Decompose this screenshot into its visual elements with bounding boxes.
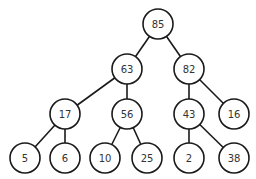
node-label: 17 — [59, 109, 72, 120]
tree-nodes: 85638217564316561025238 — [10, 9, 249, 173]
node-label: 38 — [228, 153, 241, 164]
node-label: 16 — [228, 109, 241, 120]
tree-node-63: 63 — [112, 54, 142, 84]
node-label: 6 — [62, 153, 68, 164]
node-label: 10 — [99, 153, 112, 164]
tree-node-16: 16 — [219, 99, 249, 129]
tree-node-82: 82 — [174, 54, 204, 84]
node-label: 82 — [183, 64, 196, 75]
node-label: 2 — [186, 153, 192, 164]
tree-node-38: 38 — [219, 143, 249, 173]
tree-node-43: 43 — [174, 99, 204, 129]
tree-node-5: 5 — [10, 143, 40, 173]
tree-node-25: 25 — [132, 143, 162, 173]
tree-node-2: 2 — [174, 143, 204, 173]
node-label: 25 — [141, 153, 154, 164]
tree-node-85: 85 — [143, 9, 173, 39]
tree-node-10: 10 — [90, 143, 120, 173]
tree-node-56: 56 — [112, 99, 142, 129]
tree-edges — [25, 24, 234, 158]
tree-node-6: 6 — [50, 143, 80, 173]
node-label: 5 — [22, 153, 28, 164]
node-label: 63 — [121, 64, 134, 75]
node-label: 43 — [183, 109, 196, 120]
binary-tree-diagram: 85638217564316561025238 — [0, 0, 256, 179]
tree-node-17: 17 — [50, 99, 80, 129]
node-label: 56 — [121, 109, 134, 120]
node-label: 85 — [152, 19, 165, 30]
